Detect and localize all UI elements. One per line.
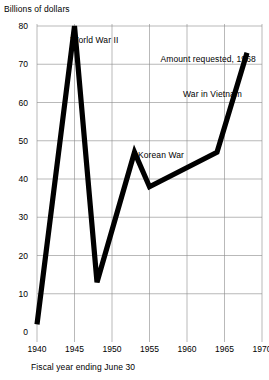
x-axis-tick-label: 1965 (210, 344, 240, 354)
y-axis-tick-label: 70 (8, 59, 28, 69)
x-axis-tick-label: 1955 (135, 344, 165, 354)
x-axis-tick-label: 1970 (247, 344, 269, 354)
x-axis-title: Fiscal year ending June 30 (31, 362, 135, 372)
y-axis-tick-label: 60 (8, 98, 28, 108)
y-axis-tick-label: 80 (8, 21, 28, 31)
y-axis-tick-label: 50 (8, 136, 28, 146)
y-axis-tick-label: 10 (8, 289, 28, 299)
y-axis-tick-label: 30 (8, 212, 28, 222)
y-axis-tick-label: 20 (8, 251, 28, 261)
x-axis-tick-label: 1960 (172, 344, 202, 354)
chart-annotation-label: Korean War (138, 150, 184, 160)
chart-container: Billions of dollars 01020304050607080 19… (0, 0, 269, 380)
chart-annotation-label: Amount requested, 1968 (161, 54, 256, 64)
chart-annotation-label: War in Vietnam (183, 89, 242, 99)
x-axis-tick-label: 1950 (97, 344, 127, 354)
y-axis-tick-label: 0 (8, 327, 28, 337)
y-axis-tick-label: 40 (8, 174, 28, 184)
chart-annotation-label: World War II (71, 35, 119, 45)
x-axis-tick-label: 1940 (22, 344, 52, 354)
data-line-series-0 (37, 26, 247, 324)
x-axis-tick-label: 1945 (60, 344, 90, 354)
